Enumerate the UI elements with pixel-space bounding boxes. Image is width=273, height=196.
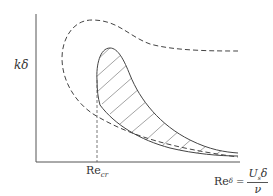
y-axis-label: kδ (14, 59, 29, 71)
x-axis-label: Reδ = Usδ ν (214, 168, 268, 195)
reynolds-fraction: Usδ ν (247, 168, 268, 195)
stability-diagram-canvas (0, 0, 273, 196)
critical-reynolds-label: Recr (86, 165, 108, 179)
hatching (95, 46, 226, 156)
inner-unstable-lobe (97, 48, 238, 156)
